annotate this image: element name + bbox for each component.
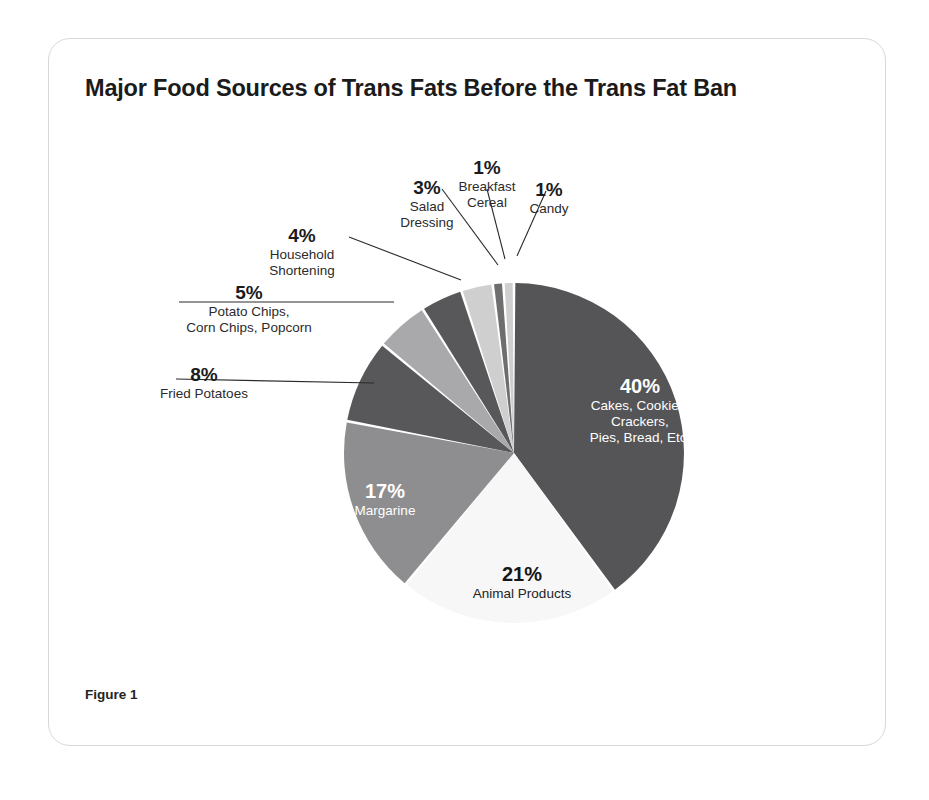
slice-label-line1: Margarine (315, 503, 455, 519)
slice-label-cakes: 40% Cakes, Cookies, Crackers, Pies, Brea… (551, 374, 729, 447)
callout-label-line1: Candy (509, 201, 589, 217)
callout-percent: 5% (159, 282, 339, 304)
slice-label-margarine: 17% Margarine (315, 479, 455, 519)
callout-percent: 1% (509, 179, 589, 201)
slice-label-line2: Crackers, (551, 414, 729, 430)
slice-label-animal-products: 21% Animal Products (432, 562, 612, 602)
slice-label-line3: Pies, Bread, Etc. (551, 430, 729, 446)
callout-household-shortening: 4% Household Shortening (237, 225, 367, 279)
slice-label-line1: Cakes, Cookies, (551, 398, 729, 414)
callout-label-line1: Fried Potatoes (139, 386, 269, 402)
slice-percent: 17% (315, 479, 455, 503)
figure-card: Major Food Sources of Trans Fats Before … (48, 38, 886, 746)
callout-fried-potatoes: 8% Fried Potatoes (139, 364, 269, 402)
callout-percent: 1% (437, 157, 537, 179)
callout-label-line2: Dressing (379, 215, 475, 231)
callout-label-line2: Corn Chips, Popcorn (159, 320, 339, 336)
callout-percent: 4% (237, 225, 367, 247)
callout-potato-chips: 5% Potato Chips, Corn Chips, Popcorn (159, 282, 339, 336)
slice-percent: 21% (432, 562, 612, 586)
callout-label-line2: Shortening (237, 263, 367, 279)
slice-percent: 40% (551, 374, 729, 398)
callout-label-line1: Potato Chips, (159, 304, 339, 320)
slice-label-line1: Animal Products (432, 586, 612, 602)
callout-percent: 8% (139, 364, 269, 386)
figure-caption: Figure 1 (85, 687, 138, 702)
callout-label-line1: Household (237, 247, 367, 263)
callout-candy: 1% Candy (509, 179, 589, 217)
